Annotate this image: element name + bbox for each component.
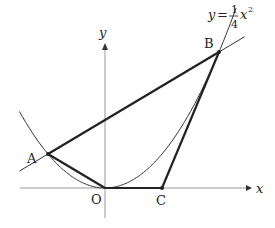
curve-equation: y = 1 4 x 2 — [207, 3, 253, 31]
point-b — [217, 50, 221, 54]
origin-label: O — [91, 192, 102, 207]
segment-ab — [48, 52, 219, 154]
y-axis-arrow-icon — [102, 43, 108, 50]
equation-coef-denominator: 4 — [231, 18, 238, 31]
equation-lhs: y — [207, 7, 216, 22]
point-c — [160, 186, 164, 190]
point-c-label: C — [156, 193, 166, 208]
point-b-label: B — [204, 36, 214, 51]
equation-var: x — [240, 7, 248, 22]
equation-equals: = — [217, 7, 228, 22]
segment-cb — [162, 52, 219, 188]
x-axis-label: x — [256, 181, 264, 196]
x-axis-arrow-icon — [246, 185, 252, 191]
equation-exponent: 2 — [248, 5, 253, 14]
point-a-label: A — [26, 151, 37, 166]
point-a — [46, 152, 50, 156]
equation-coef-numerator: 1 — [231, 3, 238, 16]
diagram-canvas: x y O A B C y = 1 4 x 2 — [0, 0, 275, 228]
segment-ao — [48, 154, 105, 188]
y-axis-label: y — [98, 25, 107, 40]
